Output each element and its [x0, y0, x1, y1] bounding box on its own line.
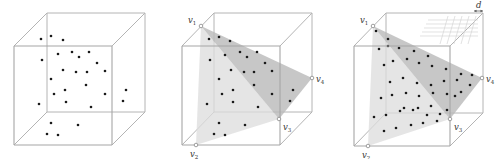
data-point [395, 127, 398, 130]
data-point [253, 84, 256, 87]
data-point [460, 73, 463, 76]
data-point [86, 71, 89, 74]
data-point [373, 116, 376, 119]
data-point [78, 56, 81, 59]
data-point [416, 82, 419, 85]
data-point [65, 101, 68, 104]
data-point [398, 47, 401, 50]
data-point [436, 120, 439, 123]
data-point [406, 58, 409, 61]
panel-simplex-grid: v1v2v3v4d [354, 0, 495, 159]
data-point [246, 56, 249, 59]
data-point [90, 106, 93, 109]
data-point [208, 38, 211, 41]
data-point [57, 53, 60, 56]
data-point [218, 78, 221, 81]
data-point [232, 89, 235, 92]
data-point [378, 48, 381, 51]
data-point [38, 103, 41, 106]
data-point [403, 107, 406, 110]
data-point [405, 92, 408, 95]
data-point [383, 130, 386, 133]
data-point [402, 77, 405, 80]
cube-edge [280, 13, 312, 46]
data-point [430, 84, 433, 87]
vertex-v4-label: v4 [486, 74, 495, 85]
data-point [96, 62, 99, 65]
data-point [244, 124, 247, 127]
vertex-v1-marker [371, 24, 375, 28]
vertex-v2-label: v2 [190, 149, 198, 159]
data-point [413, 50, 416, 53]
data-point [454, 95, 457, 98]
vertex-v2-marker [366, 144, 370, 148]
data-point [239, 51, 242, 54]
data-point [399, 110, 402, 113]
data-point [122, 100, 125, 103]
data-point [446, 93, 449, 96]
data-point [224, 54, 227, 57]
data-point [427, 55, 430, 58]
vertex-v3-label: v3 [283, 122, 292, 133]
data-point [264, 62, 267, 65]
data-point [206, 103, 209, 106]
data-point [77, 124, 80, 127]
vertex-v2-marker [194, 143, 198, 147]
data-point [218, 36, 221, 39]
data-point [432, 92, 435, 95]
data-point [213, 133, 216, 136]
cube-edge [112, 112, 145, 145]
grid-spacing-lines [420, 16, 478, 44]
data-point [289, 100, 292, 103]
panel-uniform-points [14, 13, 145, 145]
arrow-head-left [474, 10, 477, 12]
data-point [443, 80, 446, 83]
data-point [62, 69, 65, 72]
data-point [439, 113, 442, 116]
data-point [292, 89, 295, 92]
data-points [38, 35, 128, 137]
data-point [229, 40, 232, 43]
vertex-v3-label: v3 [454, 122, 463, 133]
data-point [75, 71, 78, 74]
data-point [41, 59, 44, 62]
data-point [46, 133, 49, 136]
data-point [469, 84, 472, 87]
data-point [88, 51, 91, 54]
data-point [392, 60, 395, 63]
data-point [412, 109, 415, 112]
data-point [85, 84, 88, 87]
data-point [431, 65, 434, 68]
data-point [271, 70, 274, 73]
data-point [125, 89, 128, 92]
vertex-v4-label: v4 [316, 74, 325, 85]
spacing-d-label: d [476, 0, 482, 10]
data-point [50, 122, 53, 125]
vertex-v4-marker [480, 76, 484, 80]
arrow-head-right [481, 10, 484, 12]
data-point [104, 93, 107, 96]
data-point [243, 71, 246, 74]
data-point [232, 101, 235, 104]
data-point [383, 64, 386, 67]
data-point [430, 105, 433, 108]
data-point [410, 124, 413, 127]
data-point [422, 122, 425, 125]
vertex-v2-label: v2 [362, 150, 370, 159]
vertex-v1-marker [199, 24, 203, 28]
data-point [385, 114, 388, 117]
data-point [418, 62, 421, 65]
cube-edge [14, 112, 47, 145]
data-point [446, 109, 449, 112]
data-point [50, 35, 53, 38]
data-point [57, 134, 60, 137]
vertex-v4-marker [310, 76, 314, 80]
data-point [471, 74, 474, 77]
data-point [456, 79, 459, 82]
data-point [230, 69, 233, 72]
data-point [271, 93, 274, 96]
panel-simplex-hull: v1v2v3v4 [182, 13, 325, 159]
data-point [62, 39, 65, 42]
data-point [418, 95, 421, 98]
data-point [71, 51, 74, 54]
